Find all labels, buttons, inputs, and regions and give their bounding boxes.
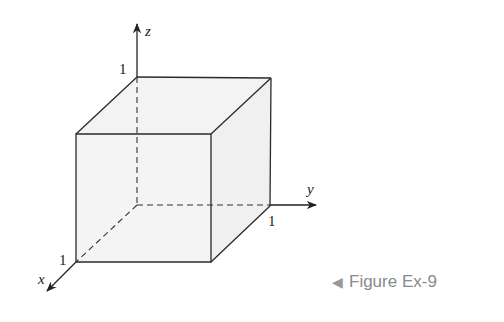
- x-axis-label: x: [37, 271, 45, 287]
- y-tick-label: 1: [268, 213, 276, 229]
- x-tick-label: 1: [59, 252, 67, 268]
- caption-text: Figure Ex-9: [349, 272, 437, 291]
- z-tick-label: 1: [119, 61, 127, 77]
- caption-arrow-icon: ◀: [332, 274, 343, 290]
- y-axis-label: y: [305, 181, 314, 197]
- figure-caption: ◀Figure Ex-9: [332, 272, 437, 292]
- z-axis-label: z: [144, 23, 151, 39]
